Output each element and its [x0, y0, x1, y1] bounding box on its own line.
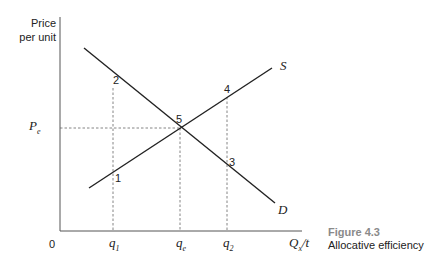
point-2-label: 2 [113, 74, 119, 86]
point-1-label: 1 [115, 172, 121, 184]
x-axis-label: Qx/t [289, 237, 309, 255]
diagram-canvas [0, 0, 440, 263]
figure-title: Allocative efficiency [328, 239, 424, 252]
origin-label: 0 [49, 238, 55, 250]
figure-caption: Figure 4.3 Allocative efficiency [328, 226, 424, 252]
figure-number: Figure 4.3 [328, 226, 424, 239]
qe-tick-label: qe [176, 237, 186, 255]
supply-label: S [280, 60, 287, 72]
q1-tick-label: q1 [109, 237, 120, 255]
pe-tick-label: Pe [29, 120, 41, 138]
demand-label: D [278, 204, 287, 216]
y-axis-label-line1: Price [10, 16, 56, 30]
point-4-label: 4 [224, 83, 230, 95]
point-3-label: 3 [229, 156, 235, 168]
point-5-label: 5 [176, 113, 182, 125]
q2-tick-label: q2 [223, 237, 234, 255]
y-axis-label: Price per unit [10, 16, 56, 44]
y-axis-label-line2: per unit [10, 30, 56, 44]
